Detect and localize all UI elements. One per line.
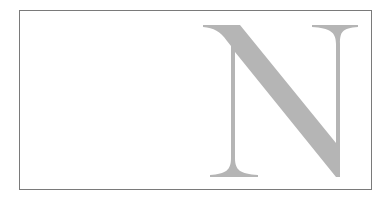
serif-letter-n-glyph [0, 0, 387, 202]
letter-n-shape [203, 25, 358, 177]
figure-canvas: N [0, 0, 387, 202]
